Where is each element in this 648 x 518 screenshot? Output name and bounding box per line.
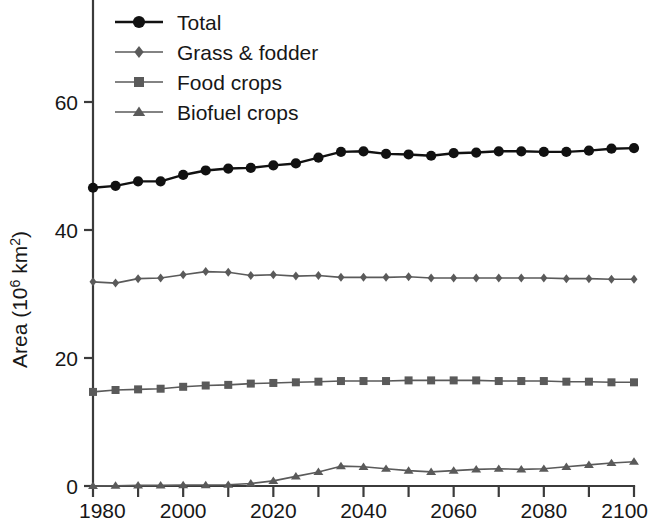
data-point-marker [292, 272, 299, 281]
data-point-marker [629, 143, 639, 153]
legend-marker-diamond-icon [134, 46, 143, 58]
data-point-marker [562, 378, 570, 386]
data-point-marker [224, 381, 232, 389]
x-tick-label: 2040 [340, 499, 387, 518]
data-point-marker [563, 274, 570, 283]
legend-item-grass-fodder[interactable]: Grass & fodder [115, 41, 318, 64]
x-tick-label: 2020 [250, 499, 297, 518]
data-point-marker [202, 382, 210, 390]
svg-text:Area (106 km2): Area (106 km2) [7, 231, 31, 368]
data-point-marker [630, 378, 638, 386]
data-point-marker [247, 271, 254, 280]
y-tick-label: 0 [66, 475, 78, 498]
data-point-marker [246, 163, 256, 173]
data-point-marker [383, 273, 390, 282]
x-tick-label: 2100 [601, 499, 648, 518]
legend-item-biofuel-crops[interactable]: Biofuel crops [115, 101, 298, 124]
data-point-marker [247, 380, 255, 388]
data-point-marker [337, 273, 344, 282]
data-point-marker [89, 277, 96, 286]
legend-label: Grass & fodder [177, 41, 318, 64]
data-point-marker [494, 146, 504, 156]
y-axis-title: Area (106 km2) [7, 231, 31, 368]
data-point-marker [223, 163, 233, 173]
y-axis-title-mid: km [8, 246, 31, 280]
series-total [88, 143, 639, 193]
data-point-marker [360, 377, 368, 385]
y-axis-title-sup-2: 2 [7, 238, 23, 246]
data-point-marker [473, 274, 480, 283]
data-point-marker [291, 158, 301, 168]
data-point-marker [156, 176, 166, 186]
x-tick-label: 2060 [430, 499, 477, 518]
data-point-marker [540, 377, 548, 385]
data-point-marker [516, 146, 526, 156]
data-point-marker [405, 272, 412, 281]
data-point-marker [584, 146, 594, 156]
data-point-marker [180, 270, 187, 279]
data-point-marker [450, 376, 458, 384]
data-point-marker [540, 274, 547, 283]
legend-label: Food crops [177, 71, 282, 94]
data-point-marker [336, 147, 346, 157]
data-point-marker [495, 274, 502, 283]
data-point-marker [89, 388, 97, 396]
data-point-marker [585, 274, 592, 283]
data-point-marker [428, 274, 435, 283]
data-point-marker [292, 378, 300, 386]
data-point-marker [313, 153, 323, 163]
data-point-marker [381, 149, 391, 159]
chart-tick-labels: 02040601980200020202040206020802100 [55, 91, 648, 518]
data-point-marker [135, 274, 142, 283]
legend-item-food-crops[interactable]: Food crops [115, 71, 282, 94]
data-point-marker [337, 377, 345, 385]
data-point-marker [382, 377, 390, 385]
chart-figure: 02040601980200020202040206020802100 Area… [0, 0, 648, 518]
data-point-marker [585, 378, 593, 386]
data-point-marker [179, 383, 187, 391]
data-point-marker [539, 147, 549, 157]
data-point-marker [561, 147, 571, 157]
x-tick-label: 2080 [520, 499, 567, 518]
data-point-marker [133, 176, 143, 186]
data-point-marker [178, 170, 188, 180]
series-grass-fodder [89, 267, 637, 288]
legend-label: Total [177, 11, 221, 34]
data-point-marker [315, 271, 322, 280]
series-food-crops [89, 376, 638, 396]
data-point-marker [630, 275, 637, 284]
data-point-marker [358, 146, 368, 156]
y-axis-title-sup-1: 6 [7, 279, 23, 287]
chart-legend: TotalGrass & fodderFood cropsBiofuel cro… [115, 11, 318, 124]
data-point-marker [360, 273, 367, 282]
data-point-marker [405, 376, 413, 384]
legend-item-total[interactable]: Total [115, 11, 221, 34]
x-tick-label: 2000 [160, 499, 207, 518]
y-tick-label: 60 [55, 91, 78, 114]
chart-series-layer [88, 143, 639, 489]
data-point-marker [607, 378, 615, 386]
legend-label: Biofuel crops [177, 101, 298, 124]
x-tick-label: 1980 [79, 499, 126, 518]
data-point-marker [606, 144, 616, 154]
series-biofuel-crops [88, 457, 639, 489]
data-point-marker [112, 279, 119, 288]
chart-axes [84, 0, 634, 497]
data-point-marker [426, 151, 436, 161]
data-point-marker [427, 376, 435, 384]
y-axis-title-prefix: Area (10 [8, 287, 31, 368]
data-point-marker [201, 165, 211, 175]
line-chart: 02040601980200020202040206020802100 Area… [0, 0, 648, 518]
data-point-marker [314, 378, 322, 386]
legend-marker-circle-icon [133, 16, 145, 28]
data-point-marker [225, 268, 232, 277]
data-point-marker [269, 379, 277, 387]
data-point-marker [88, 183, 98, 193]
data-point-marker [268, 160, 278, 170]
data-point-marker [202, 267, 209, 276]
data-point-marker [608, 275, 615, 284]
data-point-marker [403, 149, 413, 159]
data-point-marker [518, 274, 525, 283]
data-point-marker [270, 270, 277, 279]
data-point-marker [449, 148, 459, 158]
